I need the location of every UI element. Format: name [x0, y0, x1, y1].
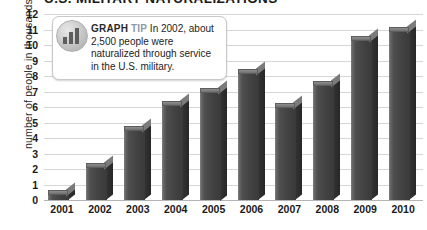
- y-axis-tick: 3: [8, 148, 38, 160]
- gridline: [44, 14, 423, 15]
- bar-top-face: [124, 126, 144, 131]
- bar-top-face: [86, 163, 106, 168]
- bar: [275, 100, 302, 200]
- graph-tip-kicker-accent: TIP: [131, 23, 147, 34]
- bar-side-face: [295, 102, 302, 200]
- bar-top-face: [200, 88, 220, 93]
- graph-tip-callout: GRAPH TIP In 2002, about 2,500 people we…: [52, 16, 227, 80]
- bar-front-face: [200, 92, 221, 201]
- bar-side-face: [258, 67, 265, 200]
- bar-side-face: [371, 35, 378, 200]
- bar-front-face: [389, 31, 410, 200]
- bar-front-face: [313, 85, 334, 200]
- bar-side-face: [182, 100, 189, 200]
- bar-top-face: [389, 27, 409, 32]
- gridline: [44, 200, 423, 201]
- y-axis-tick: 1: [8, 179, 38, 191]
- bar: [124, 123, 151, 200]
- bar-top-face: [351, 36, 371, 41]
- graph-tip-text: GRAPH TIP In 2002, about 2,500 people we…: [91, 23, 218, 73]
- y-axis-tick: 4: [8, 132, 38, 144]
- bar-top-face: [162, 101, 182, 106]
- y-axis-tick: 8: [8, 70, 38, 82]
- y-axis-tick: 9: [8, 55, 38, 67]
- bar: [389, 24, 416, 200]
- bar-front-face: [351, 40, 372, 200]
- bar: [313, 78, 340, 200]
- y-axis-tick: 10: [8, 39, 38, 51]
- bar-front-face: [86, 167, 107, 200]
- bar: [200, 85, 227, 201]
- bar-side-face: [409, 26, 416, 200]
- bar-top-face: [275, 103, 295, 108]
- bar: [48, 187, 75, 200]
- y-axis-tick: 7: [8, 86, 38, 98]
- chart-container: U.S. MILITARY NATURALIZATIONS number of …: [0, 0, 427, 230]
- bar-top-face: [48, 190, 68, 195]
- y-axis-tick: 12: [8, 8, 38, 20]
- y-axis-tick: 0: [8, 194, 38, 206]
- y-axis-tick: 11: [8, 24, 38, 36]
- bar-side-face: [333, 80, 340, 200]
- bar-front-face: [238, 73, 259, 200]
- bar: [238, 66, 265, 200]
- bar-side-face: [220, 86, 227, 200]
- bar: [351, 33, 378, 200]
- bar-side-face: [144, 125, 151, 200]
- bar-chart-badge-icon: [56, 20, 88, 52]
- bar-top-face: [238, 69, 258, 74]
- bar-front-face: [124, 130, 145, 200]
- bar-front-face: [162, 105, 183, 200]
- graph-tip-kicker: GRAPH: [91, 23, 128, 34]
- bar-front-face: [275, 107, 296, 200]
- y-axis-tick: 5: [8, 117, 38, 129]
- chart-title: U.S. MILITARY NATURALIZATIONS: [44, 0, 384, 5]
- x-axis-tick: 2010: [380, 203, 426, 215]
- y-axis-tick: 2: [8, 163, 38, 175]
- bar: [86, 160, 113, 200]
- y-axis-tick: 6: [8, 101, 38, 113]
- bar: [162, 98, 189, 200]
- bar-top-face: [313, 81, 333, 86]
- bar-side-face: [106, 162, 113, 200]
